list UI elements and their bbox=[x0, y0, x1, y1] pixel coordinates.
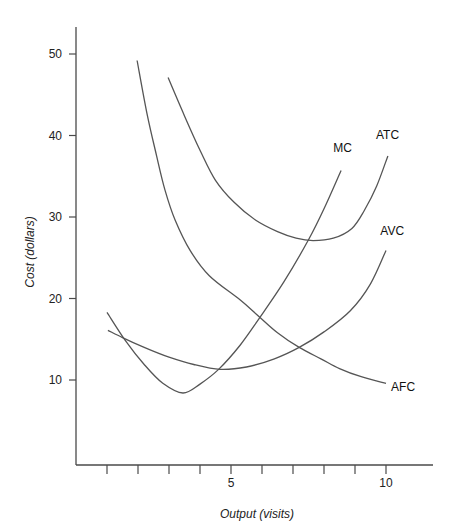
label-afc: AFC bbox=[391, 380, 415, 394]
curves bbox=[107, 61, 388, 394]
x-tick-label: 5 bbox=[228, 476, 235, 490]
x-ticks: 510 bbox=[107, 465, 393, 490]
y-tick-label: 50 bbox=[49, 47, 63, 61]
curve-avc bbox=[108, 250, 386, 369]
x-axis-title: Output (visits) bbox=[220, 507, 294, 521]
label-mc: MC bbox=[333, 141, 352, 155]
cost-curves-chart: 1020304050 510 MCATCAVCAFC Output (visit… bbox=[0, 0, 451, 529]
x-tick-label: 10 bbox=[379, 476, 393, 490]
y-ticks: 1020304050 bbox=[49, 47, 76, 387]
y-tick-label: 20 bbox=[49, 292, 63, 306]
curve-atc bbox=[168, 78, 388, 241]
label-avc: AVC bbox=[380, 224, 404, 238]
axes bbox=[76, 27, 433, 465]
curve-labels: MCATCAVCAFC bbox=[333, 128, 415, 394]
y-tick-label: 30 bbox=[49, 210, 63, 224]
y-tick-label: 40 bbox=[49, 129, 63, 143]
curve-mc bbox=[107, 171, 341, 394]
label-atc: ATC bbox=[376, 128, 399, 142]
y-axis-title: Cost (dollars) bbox=[23, 216, 37, 287]
curve-afc bbox=[137, 61, 386, 384]
y-tick-label: 10 bbox=[49, 373, 63, 387]
